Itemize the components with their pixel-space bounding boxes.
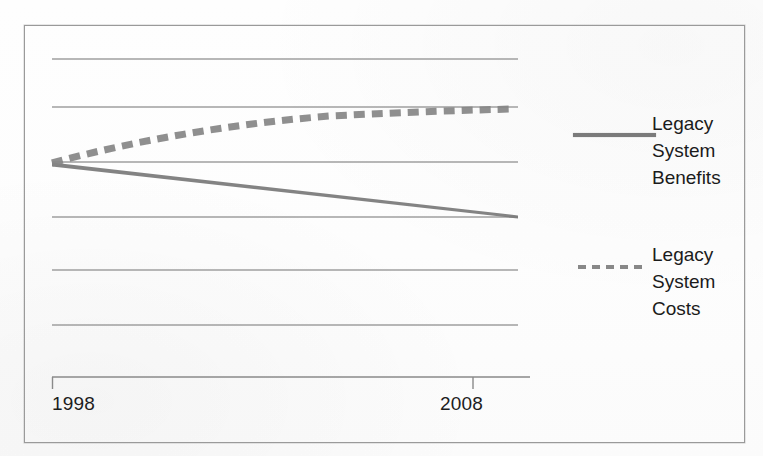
legend-dash [578,265,586,269]
x-axis [52,377,530,389]
legend-label-line: System [652,137,752,164]
legend-label-line: Benefits [652,164,752,191]
legend-label-line: System [652,268,752,295]
legend-label-line: Costs [652,295,752,322]
series-legacy-system-benefits [52,163,518,219]
series-legacy-system-costs [52,109,513,163]
chart-figure: 1998 2008 Legacy System Benefits Legacy … [0,0,763,456]
legend-label-line: Legacy [652,241,752,268]
series-line-benefits [52,163,518,219]
legend-dash [620,265,628,269]
legend-label-benefits: Legacy System Benefits [652,110,752,191]
legend-dash [606,265,614,269]
legend-label-costs: Legacy System Costs [652,241,752,322]
legend-dash [634,265,642,269]
legend-dash [592,265,600,269]
plot-canvas [0,0,763,456]
x-axis-label-1998: 1998 [52,393,95,415]
x-axis-label-2008: 2008 [440,393,483,415]
legend-line-swatch-solid-icon [573,133,656,137]
legend-line-swatch-dashed-icon [578,265,644,269]
series-line-costs [52,109,513,163]
legend-label-line: Legacy [652,110,752,137]
